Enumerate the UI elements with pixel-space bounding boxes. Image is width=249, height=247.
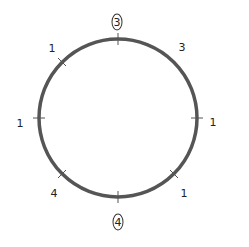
label-top-left: 1 [49, 43, 56, 54]
label-bottom: 4 [113, 214, 124, 231]
label-left: 1 [17, 118, 24, 129]
label-bottom-left: 4 [51, 188, 58, 199]
label-bottom-right: 1 [181, 188, 188, 199]
tick-marks [33, 33, 203, 203]
label-right: 1 [210, 117, 217, 128]
label-top: 3 [112, 14, 123, 31]
label-top-right: 3 [179, 42, 186, 53]
